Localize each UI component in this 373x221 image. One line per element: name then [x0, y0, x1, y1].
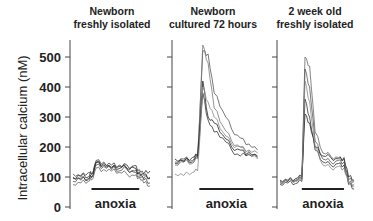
panel-title: cultured 72 hours: [169, 18, 257, 30]
y-tick-label: 200: [39, 140, 61, 155]
y-tick-label: 400: [39, 80, 61, 95]
panel-title: Newborn: [90, 5, 135, 17]
trace-line: [280, 114, 354, 182]
y-tick-label: 100: [39, 170, 61, 185]
anoxia-label: anoxia: [206, 196, 248, 211]
trace-line: [175, 51, 258, 163]
panel-title: Newborn: [191, 5, 236, 17]
panel-3: 2 week oldfreshly isolatedanoxia: [272, 5, 354, 211]
trace-line: [175, 45, 258, 165]
y-tick-labels: 0100200300400500: [39, 50, 61, 215]
trace-line: [280, 69, 354, 182]
y-tick-label: 0: [54, 200, 61, 215]
panel-title: freshly isolated: [73, 18, 150, 30]
y-tick-label: 300: [39, 110, 61, 125]
anoxia-label: anoxia: [95, 196, 137, 211]
y-tick-label: 500: [39, 50, 61, 65]
trace-line: [280, 57, 354, 186]
y-axis-label-group: Intracellular calcium (nM): [15, 55, 30, 200]
y-axis-label: Intracellular calcium (nM): [15, 55, 30, 200]
panel-title: freshly isolated: [276, 18, 353, 30]
panel-1: Newbornfreshly isolatedanoxia: [65, 5, 151, 211]
trace-line: [73, 160, 150, 184]
anoxia-label: anoxia: [302, 196, 344, 211]
panel-2: Newborncultured 72 hoursanoxia: [167, 5, 258, 211]
trace-line: [280, 81, 354, 185]
panels: Newbornfreshly isolatedanoxiaNewborncult…: [65, 5, 354, 211]
panel-title: 2 week old: [288, 5, 341, 17]
chart-figure: Intracellular calcium (nM) 0100200300400…: [0, 0, 373, 221]
